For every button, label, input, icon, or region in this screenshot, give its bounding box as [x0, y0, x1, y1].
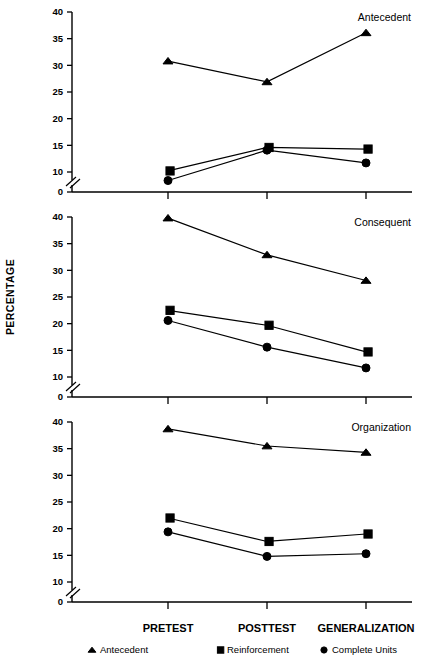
y-tick-label: 0: [58, 186, 63, 197]
data-point-square: [364, 348, 372, 356]
legend-item: Complete Units: [321, 644, 397, 655]
y-tick-label: 35: [52, 443, 63, 454]
y-tick-label: 10: [52, 576, 63, 587]
panel-title: Organization: [351, 421, 411, 433]
x-category-label: POSTTEST: [238, 622, 296, 634]
data-point-circle: [362, 364, 370, 372]
data-point-circle: [164, 177, 172, 185]
y-tick-label: 40: [52, 211, 63, 222]
data-point-square: [166, 306, 174, 314]
y-tick-label: 0: [58, 391, 63, 402]
data-point-square: [364, 145, 372, 153]
data-point-circle: [164, 316, 172, 324]
y-tick-label: 35: [52, 238, 63, 249]
panel-title: Consequent: [354, 216, 411, 228]
y-tick-label: 10: [52, 371, 63, 382]
y-tick-label: 35: [52, 33, 63, 44]
data-point-triangle: [262, 251, 272, 257]
data-point-triangle: [163, 425, 173, 431]
y-tick-label: 15: [52, 550, 63, 561]
panel-title: Antecedent: [358, 11, 411, 23]
y-tick-label: 25: [52, 86, 63, 97]
data-point-circle: [362, 550, 370, 558]
data-point-circle: [263, 552, 271, 560]
chart-panel-antecedent: 010152025303540Antecedent: [52, 6, 412, 199]
data-point-triangle: [361, 29, 371, 35]
y-tick-label: 20: [52, 523, 63, 534]
chart-panel-consequent: 010152025303540Consequent: [52, 211, 412, 404]
legend-label: Reinforcement: [227, 644, 289, 655]
y-tick-label: 20: [52, 113, 63, 124]
triangle-marker: [88, 647, 96, 652]
y-tick-label: 30: [52, 470, 63, 481]
legend-label: Complete Units: [332, 644, 397, 655]
y-tick-label: 25: [52, 496, 63, 507]
data-point-square: [265, 537, 273, 545]
data-point-square: [364, 530, 372, 538]
x-category-label: PRETEST: [143, 622, 194, 634]
y-tick-label: 15: [52, 140, 63, 151]
data-point-triangle: [163, 214, 173, 220]
square-marker: [217, 647, 223, 653]
data-point-circle: [164, 528, 172, 536]
series-line-triangle: [168, 218, 366, 280]
circle-marker: [321, 647, 327, 653]
data-point-circle: [263, 146, 271, 154]
legend-label: Antecedent: [100, 644, 148, 655]
data-point-square: [166, 167, 174, 175]
y-tick-label: 20: [52, 318, 63, 329]
y-tick-label: 30: [52, 60, 63, 71]
three-panel-line-chart: 010152025303540Antecedent010152025303540…: [0, 0, 431, 661]
y-tick-label: 40: [52, 416, 63, 427]
legend-item: Reinforcement: [217, 644, 289, 655]
y-tick-label: 15: [52, 345, 63, 356]
y-tick-label: 10: [52, 166, 63, 177]
y-tick-label: 40: [52, 6, 63, 17]
data-point-square: [265, 321, 273, 329]
data-point-circle: [263, 343, 271, 351]
y-axis-title: PERCENTAGE: [4, 259, 16, 335]
y-tick-label: 30: [52, 265, 63, 276]
data-point-square: [166, 514, 174, 522]
x-category-label: GENERALIZATION: [318, 622, 415, 634]
y-tick-label: 0: [58, 596, 63, 607]
series-line-triangle: [168, 33, 366, 82]
chart-panel-organization: 010152025303540Organization: [52, 416, 412, 609]
data-point-triangle: [163, 57, 173, 63]
series-line-circle: [168, 150, 366, 180]
data-point-circle: [362, 159, 370, 167]
legend-item: Antecedent: [88, 644, 148, 655]
y-tick-label: 25: [52, 291, 63, 302]
